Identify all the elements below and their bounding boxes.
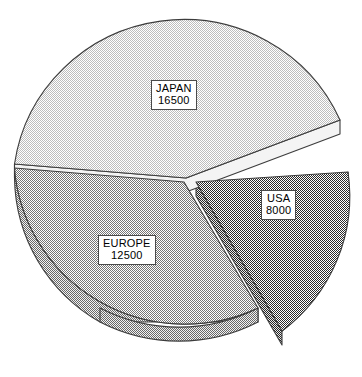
pie-chart-graphic (0, 0, 362, 377)
slice-label-europe-value: 12500 (103, 249, 151, 261)
slice-label-japan-value: 16500 (156, 94, 192, 106)
slice-label-europe: EUROPE 12500 (98, 235, 156, 265)
pie-chart: JAPAN 16500 USA 8000 EUROPE 12500 (0, 0, 362, 377)
slice-label-usa-name: USA (266, 192, 291, 204)
slice-label-usa: USA 8000 (261, 190, 296, 220)
slice-label-japan-name: JAPAN (156, 82, 192, 94)
slice-label-japan: JAPAN 16500 (151, 80, 197, 110)
slice-label-usa-value: 8000 (266, 204, 291, 216)
slice-label-europe-name: EUROPE (103, 237, 151, 249)
